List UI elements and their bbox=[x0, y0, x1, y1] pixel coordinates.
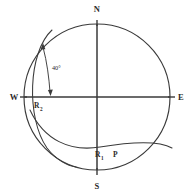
label-east: E bbox=[178, 92, 184, 102]
label-north: N bbox=[94, 4, 101, 14]
label-west: W bbox=[10, 92, 19, 102]
stereonet-diagram: N S E W 40° R 2 R 1 P bbox=[0, 0, 190, 195]
label-r1-subscript: 1 bbox=[101, 155, 104, 161]
stereonet-figure: N S E W 40° R 2 R 1 P bbox=[0, 0, 190, 195]
label-angle-40: 40° bbox=[52, 64, 61, 71]
label-south: S bbox=[95, 181, 100, 191]
label-p: P bbox=[113, 150, 118, 159]
label-r2-subscript: 2 bbox=[40, 106, 43, 112]
